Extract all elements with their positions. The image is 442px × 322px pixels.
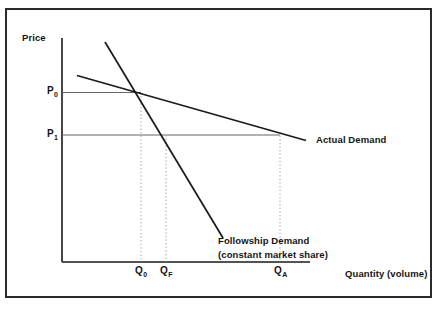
x-tick-qf-text: Q: [160, 265, 168, 276]
x-tick-qa-text: Q: [274, 265, 282, 276]
actual-demand-label: Actual Demand: [316, 133, 386, 147]
x-tick-label-q0: Q0: [135, 265, 147, 276]
followship-demand-label: Followship Demand (constant market share…: [218, 234, 328, 261]
x-tick-qf-subscript: F: [168, 271, 172, 278]
y-tick-p0-text: P: [47, 85, 54, 96]
x-tick-q0-subscript: 0: [143, 271, 147, 278]
y-tick-label-p1: P1: [47, 128, 58, 139]
x-tick-label-qa: QA: [274, 265, 287, 276]
y-tick-label-p0: P0: [47, 85, 58, 96]
x-tick-qa-subscript: A: [282, 271, 287, 278]
y-tick-p1-subscript: 1: [54, 134, 58, 141]
figure-container: Price P0 P1 Q0 QF QA Quantity (volume) A…: [0, 0, 442, 322]
y-tick-p0-subscript: 0: [54, 91, 58, 98]
y-tick-p1-text: P: [47, 128, 54, 139]
x-axis-title: Quantity (volume): [345, 268, 427, 279]
x-tick-label-qf: QF: [160, 265, 172, 276]
x-tick-q0-text: Q: [135, 265, 143, 276]
followship-demand-label-line1: Followship Demand: [218, 234, 328, 248]
y-axis-title: Price: [22, 32, 46, 43]
followship-demand-label-line2: (constant market share): [218, 248, 328, 262]
